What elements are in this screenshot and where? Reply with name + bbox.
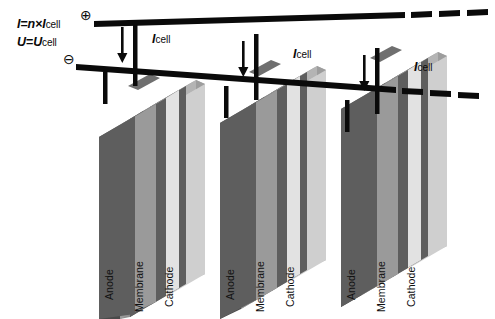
cell-2-riser [254, 34, 259, 100]
cell-group-1 [99, 74, 205, 319]
cell-1-top-tab [128, 74, 160, 90]
positive-busbar [94, 9, 488, 27]
negative-busbar-dash-1 [402, 88, 423, 95]
positive-busbar-dash-2 [439, 10, 460, 17]
negative-busbar-dash-3 [458, 92, 479, 99]
cell-3-top-tab [370, 46, 402, 62]
cell-3-riser [375, 48, 380, 114]
cell-3-drop [345, 100, 350, 132]
current-arrow-1 [117, 27, 127, 63]
positive-busbar-dash-1 [411, 11, 432, 18]
diagram-canvas [0, 0, 495, 319]
cell-2-top-tab [249, 60, 281, 76]
negative-busbar-dash-2 [430, 90, 451, 97]
cell-group-2 [220, 60, 326, 319]
cell-1-riser [133, 20, 138, 86]
cell-2-drop [224, 86, 229, 118]
cell-1-drop [103, 72, 108, 104]
current-arrow-2 [238, 41, 248, 77]
electrolyzer-stack-diagram: I=n×Icell U=Ucell ⊕ ⊖ Icell Icell Icell … [0, 0, 495, 319]
positive-busbar-dash-3 [467, 9, 488, 16]
